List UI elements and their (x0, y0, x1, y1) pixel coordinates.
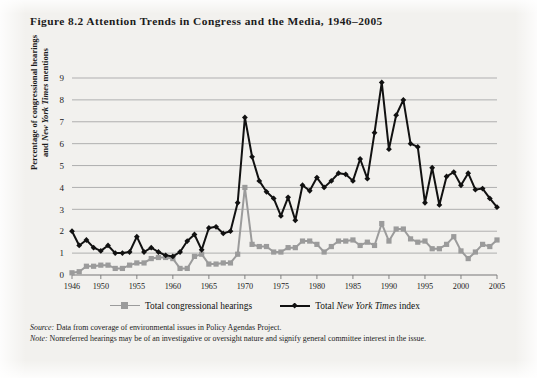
data-point-marker (386, 238, 391, 243)
data-point-marker (113, 266, 118, 271)
y-tick-label: 8 (60, 95, 65, 105)
data-point-marker (134, 260, 139, 265)
data-point-marker (69, 270, 74, 275)
legend-label-nyt-index: Total New York Times index (315, 301, 420, 311)
data-point-marker (235, 200, 241, 206)
data-point-marker (278, 213, 284, 219)
y-tick-label: 3 (60, 205, 65, 215)
data-point-marker (364, 176, 370, 182)
legend-swatch-black-line-icon (280, 301, 310, 311)
data-point-marker (293, 245, 298, 250)
data-point-marker (437, 246, 442, 251)
x-tick-label: 1946 (64, 282, 80, 291)
data-point-marker (415, 144, 421, 150)
data-point-marker (494, 237, 499, 242)
explanatory-note-label: Note: (30, 334, 48, 343)
source-note-text: Data from coverage of environmental issu… (54, 323, 281, 332)
y-tick-label: 5 (60, 161, 65, 171)
data-point-marker (394, 226, 399, 231)
x-tick-label: 1995 (417, 282, 433, 291)
data-point-marker (91, 264, 96, 269)
data-point-marker (98, 263, 103, 268)
data-point-marker (487, 244, 492, 249)
data-point-marker (105, 263, 110, 268)
data-point-marker (185, 266, 190, 271)
x-tick-label: 2000 (453, 282, 469, 291)
data-point-marker (264, 244, 269, 249)
data-point-marker (422, 238, 427, 243)
chart-legend: Total congressional hearings Total New Y… (110, 297, 440, 314)
series-line-congressional-hearings (72, 187, 497, 272)
data-point-marker (444, 242, 449, 247)
data-point-marker (329, 244, 334, 249)
data-point-marker (84, 264, 89, 269)
data-point-marker (386, 146, 392, 152)
legend-swatch-gray-line-icon (110, 301, 140, 311)
data-point-marker (249, 242, 254, 247)
data-point-marker (257, 244, 262, 249)
source-note: Source: Data from coverage of environmen… (30, 322, 510, 333)
legend-item-congressional-hearings: Total congressional hearings (110, 301, 252, 311)
data-point-marker (365, 240, 370, 245)
data-point-marker (430, 246, 435, 251)
data-point-marker (357, 156, 363, 162)
data-point-marker (358, 243, 363, 248)
data-point-marker (466, 256, 471, 261)
y-tick-label: 6 (60, 139, 65, 149)
y-tick-label: 0 (60, 270, 65, 280)
x-tick-label: 2005 (489, 282, 505, 291)
data-point-marker (451, 234, 456, 239)
data-point-marker (156, 255, 161, 260)
x-tick-label: 1955 (129, 282, 145, 291)
x-tick-label: 1985 (345, 282, 361, 291)
x-tick-label: 1975 (273, 282, 289, 291)
data-point-marker (408, 141, 414, 147)
data-point-marker (322, 249, 327, 254)
data-point-marker (228, 228, 234, 234)
data-point-marker (480, 242, 485, 247)
data-point-marker (350, 237, 355, 242)
data-point-marker (436, 202, 442, 208)
data-point-marker (235, 252, 240, 257)
y-tick-label: 9 (60, 73, 65, 83)
explanatory-note: Note: Nonreferred hearings may be of an … (30, 333, 510, 344)
x-tick-label: 1965 (201, 282, 217, 291)
data-point-marker (458, 248, 463, 253)
data-point-marker (336, 238, 341, 243)
y-tick-label: 4 (60, 183, 65, 193)
data-point-marker (77, 269, 82, 274)
y-tick-label: 1 (60, 248, 65, 258)
data-point-marker (221, 260, 226, 265)
y-tick-label: 2 (60, 226, 65, 236)
data-point-marker (379, 79, 385, 85)
x-tick-label: 1960 (165, 282, 181, 291)
x-tick-label: 1970 (237, 282, 253, 291)
data-point-marker (343, 238, 348, 243)
data-point-marker (177, 266, 182, 271)
data-point-marker (206, 261, 211, 266)
data-point-marker (379, 221, 384, 226)
x-tick-label: 1980 (309, 282, 325, 291)
data-point-marker (307, 238, 312, 243)
data-point-marker (278, 249, 283, 254)
data-point-marker (249, 154, 255, 160)
data-point-marker (292, 217, 298, 223)
data-point-marker (285, 194, 291, 200)
data-point-marker (473, 249, 478, 254)
data-point-marker (120, 266, 125, 271)
data-point-marker (286, 245, 291, 250)
explanatory-note-text: Nonreferred hearings may be of an invest… (48, 334, 426, 343)
data-point-marker (242, 185, 247, 190)
data-point-marker (206, 225, 212, 231)
data-point-marker (213, 261, 218, 266)
x-tick-label: 1990 (381, 282, 397, 291)
data-point-marker (127, 263, 132, 268)
data-point-marker (271, 249, 276, 254)
data-point-marker (408, 236, 413, 241)
legend-label-congressional-hearings: Total congressional hearings (145, 301, 252, 311)
legend-item-nyt-index: Total New York Times index (280, 301, 420, 311)
data-point-marker (372, 243, 377, 248)
data-point-marker (228, 260, 233, 265)
data-point-marker (120, 250, 126, 256)
data-point-marker (242, 115, 248, 121)
